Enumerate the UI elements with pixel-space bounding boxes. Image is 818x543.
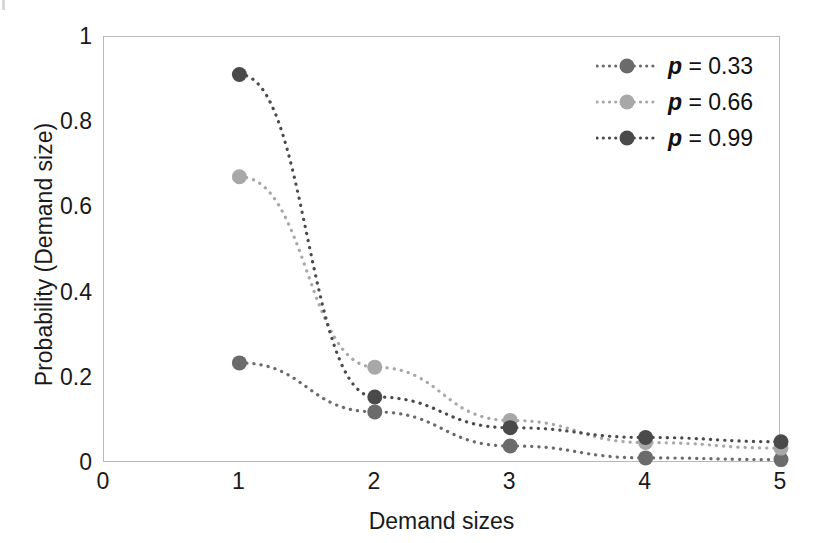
legend-value: = 0.66: [688, 89, 753, 115]
data-point: [503, 438, 518, 453]
legend-var-p: p: [668, 89, 682, 115]
x-tick-label: 5: [774, 470, 787, 493]
legend-marker-icon-p-099: [596, 129, 658, 147]
data-point: [638, 450, 653, 465]
data-point: [774, 434, 789, 449]
y-tick-label: 0.2: [60, 365, 92, 388]
x-tick-label: 4: [638, 470, 651, 493]
legend-marker-icon-p-033: [596, 57, 658, 75]
data-point: [503, 420, 518, 435]
series-line-1: [239, 177, 781, 448]
legend-label-p-066: p = 0.66: [668, 89, 753, 116]
x-tick-label: 0: [97, 470, 110, 493]
x-tick-label: 2: [367, 470, 380, 493]
y-axis-title: Probability (Demand size): [31, 45, 58, 465]
chart-figure: 1 0.8 0.6 0.4 0.2 0 0 1 2 3 4 5 Demand s…: [0, 0, 818, 543]
legend-item-p-033[interactable]: p = 0.33: [596, 48, 771, 84]
legend-var-p: p: [668, 53, 682, 79]
scan-artifact: [2, 0, 5, 10]
y-tick-label: 0.6: [60, 195, 92, 218]
y-tick-label: 0.4: [60, 280, 92, 303]
y-tick-label: 0.8: [60, 110, 92, 133]
data-point: [367, 389, 382, 404]
y-tick-label: 1: [79, 25, 92, 48]
data-point: [232, 169, 247, 184]
legend-var-p: p: [668, 125, 682, 151]
x-axis-title: Demand sizes: [103, 508, 780, 535]
x-tick-label: 1: [232, 470, 245, 493]
data-point: [232, 67, 247, 82]
legend-marker-icon-p-066: [596, 93, 658, 111]
x-axis-tick-labels: 0 1 2 3 4 5: [103, 470, 780, 500]
legend-value: = 0.33: [688, 53, 753, 79]
legend-item-p-099[interactable]: p = 0.99: [596, 120, 771, 156]
legend-label-p-033: p = 0.33: [668, 53, 753, 80]
data-point: [232, 355, 247, 370]
x-tick-label: 3: [503, 470, 516, 493]
chart-legend: p = 0.33 p = 0.66 p = 0.99: [596, 48, 771, 156]
legend-item-p-066[interactable]: p = 0.66: [596, 84, 771, 120]
y-tick-label: 0: [79, 451, 92, 474]
legend-label-p-099: p = 0.99: [668, 125, 753, 152]
data-point: [638, 430, 653, 445]
data-point: [367, 404, 382, 419]
data-point: [367, 360, 382, 375]
legend-value: = 0.99: [688, 125, 753, 151]
